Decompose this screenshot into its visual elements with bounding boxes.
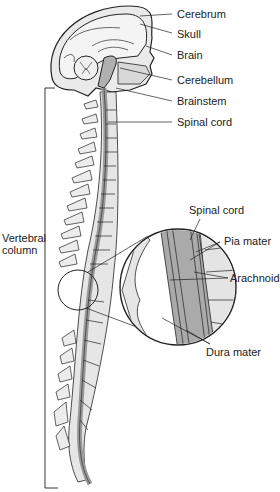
label-pia-mater: Pia mater — [224, 235, 271, 247]
label-cerebrum: Cerebrum — [177, 8, 226, 20]
magnified-inset — [120, 225, 240, 350]
label-vertebral-column-2: column — [2, 244, 37, 256]
vertebral-column-bracket — [45, 88, 58, 488]
label-arachnoid: Arachnoid — [230, 272, 280, 284]
label-spinal-cord-inset: Spinal cord — [189, 204, 244, 216]
label-cerebellum: Cerebellum — [177, 74, 233, 86]
label-dura-mater: Dura mater — [206, 346, 261, 358]
label-brain: Brain — [177, 49, 203, 61]
label-brainstem: Brainstem — [177, 95, 227, 107]
label-skull: Skull — [177, 28, 201, 40]
label-vertebral-column-1: Vertebral — [2, 232, 46, 244]
label-spinal-cord: Spinal cord — [177, 116, 232, 128]
